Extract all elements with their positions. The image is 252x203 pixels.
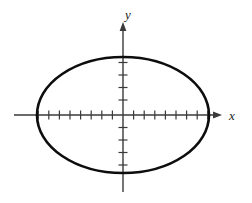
graph-canvas: x y bbox=[0, 0, 252, 203]
y-axis-label: y bbox=[123, 7, 131, 22]
x-axis-group bbox=[14, 112, 222, 119]
y-axis-group bbox=[120, 22, 127, 192]
x-axis-arrowhead bbox=[213, 112, 222, 119]
x-axis-label: x bbox=[228, 108, 235, 123]
y-axis-arrowhead bbox=[120, 22, 127, 31]
ellipse-figure: x y bbox=[0, 0, 252, 203]
